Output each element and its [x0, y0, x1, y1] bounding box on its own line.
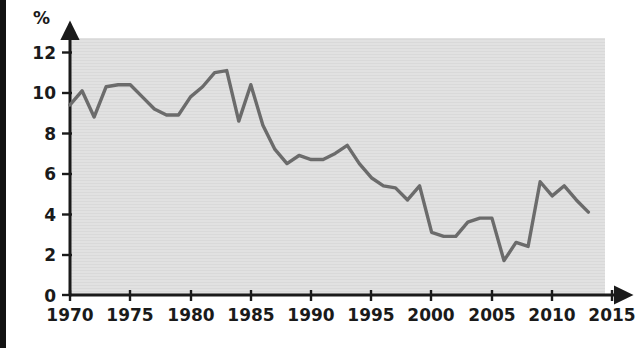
plot-background: [70, 38, 605, 295]
chart-canvas: [0, 0, 640, 348]
chart-figure: % 12 10 8 6 4 2 0 1970 1975 1980 1985 19…: [0, 0, 640, 348]
